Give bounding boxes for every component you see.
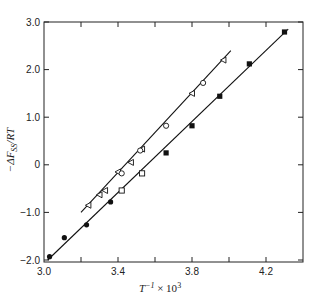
x-tick-label: 3.0 — [37, 266, 51, 277]
x-tick-label: 3.4 — [111, 266, 125, 277]
y-tick-label: 2.0 — [26, 64, 40, 75]
data-point-filled-square — [189, 123, 194, 128]
data-point-filled-square — [217, 94, 222, 99]
chart: 3.03.43.84.2−2.0−1.001.02.03.0 T−1 × 103… — [0, 0, 315, 300]
data-point-open-circle — [164, 123, 169, 128]
data-point-open-triangle — [220, 57, 226, 63]
data-point-open-circle — [119, 171, 124, 176]
y-tick-label: 0 — [34, 159, 40, 170]
data-point-filled-circle — [108, 199, 113, 204]
x-axis-label: T−1 × 103 — [139, 281, 181, 294]
data-point-open-circle — [201, 80, 206, 85]
fit-line — [48, 29, 289, 260]
data-points — [47, 29, 287, 259]
data-point-open-circle — [138, 148, 143, 153]
y-axis-label: −ΔFSS/RT — [4, 127, 19, 172]
fit-lines — [48, 29, 289, 260]
data-point-open-square — [139, 171, 144, 176]
x-tick-label: 4.2 — [259, 266, 273, 277]
data-point-filled-circle — [84, 222, 89, 227]
fit-line — [81, 51, 231, 213]
data-point-filled-square — [247, 61, 252, 66]
data-point-open-square — [119, 188, 124, 193]
data-point-filled-square — [164, 150, 169, 155]
tick-labels: 3.03.43.84.2−2.0−1.001.02.03.0 — [20, 17, 273, 278]
y-tick-label: 3.0 — [26, 17, 40, 28]
data-point-filled-square — [282, 29, 287, 34]
x-tick-label: 3.8 — [185, 266, 199, 277]
y-tick-label: −1.0 — [20, 207, 40, 218]
data-point-filled-circle — [62, 235, 67, 240]
y-tick-label: −2.0 — [20, 255, 40, 266]
y-tick-label: 1.0 — [26, 112, 40, 123]
data-point-filled-circle — [47, 254, 52, 259]
